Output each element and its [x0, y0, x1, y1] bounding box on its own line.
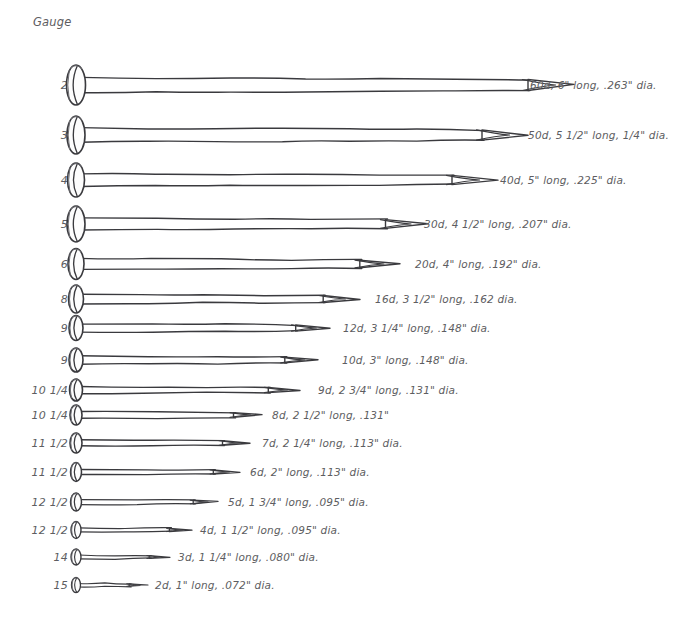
nail-spec-label: 8d, 2 1/2" long, .131"	[272, 409, 389, 421]
nail-spec-label: 10d, 3" long, .148" dia.	[342, 354, 469, 366]
nail-spec-label: 7d, 2 1/4" long, .113" dia.	[262, 437, 403, 449]
nail-spec-label: 6d, 2" long, .113" dia.	[250, 466, 370, 478]
nail-spec-label: 40d, 5" long, .225" dia.	[500, 174, 627, 186]
nail-gauge-chart: Gauge 260d, 6" long, .263" dia.350d, 5 1…	[0, 0, 693, 621]
nail-spec-label: 20d, 4" long, .192" dia.	[415, 258, 542, 270]
nail-spec-label: 9d, 2 3/4" long, .131" dia.	[318, 384, 459, 396]
nail-spec-label: 60d, 6" long, .263" dia.	[530, 79, 657, 91]
nail-illustration	[0, 58, 604, 112]
nail-spec-label: 12d, 3 1/4" long, .148" dia.	[343, 322, 491, 334]
nail-spec-label: 5d, 1 3/4" long, .095" dia.	[228, 496, 369, 508]
nail-spec-label: 30d, 4 1/2" long, .207" dia.	[424, 218, 572, 230]
nail-illustration	[0, 155, 528, 205]
gauge-column-header: Gauge	[33, 15, 72, 29]
nail-spec-label: 16d, 3 1/2" long, .162 dia.	[375, 293, 518, 305]
nail-spec-label: 4d, 1 1/2" long, .095" dia.	[200, 524, 341, 536]
nail-illustration	[0, 560, 178, 610]
nail-spec-label: 50d, 5 1/2" long, 1/4" dia.	[528, 129, 669, 141]
nail-spec-label: 2d, 1" long, .072" dia.	[155, 579, 275, 591]
nail-illustration	[0, 109, 558, 161]
nail-spec-label: 3d, 1 1/4" long, .080" dia.	[178, 551, 319, 563]
